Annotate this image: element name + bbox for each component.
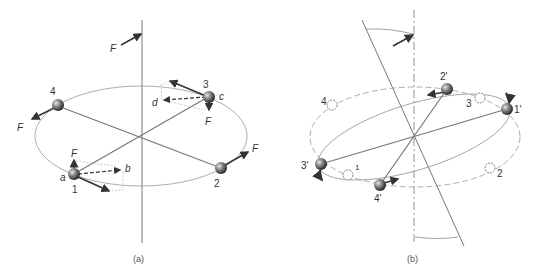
mass-label-4: 4 <box>50 86 56 97</box>
mass-label-3-prime: 3' <box>301 160 309 171</box>
tilt-angle-arc-top <box>366 29 413 34</box>
vector-diagram-1 <box>74 160 123 191</box>
panel-b: 4 3 1 2 2' 1' 3' 4' (b) <box>301 10 522 264</box>
mass-label-3: 3 <box>203 79 209 90</box>
force-label-3: F <box>205 116 212 127</box>
torque-arrow-b <box>393 35 413 46</box>
diagram-canvas: F F 4 3 c d F F 2 1 a b <box>0 0 533 275</box>
old-position-3 <box>475 93 485 103</box>
point-label-a: a <box>60 172 66 183</box>
mass-1-prime <box>501 103 513 115</box>
mass-label-2-prime: 2' <box>440 71 448 82</box>
mass-label-2: 2 <box>214 178 220 189</box>
mass-3 <box>203 91 215 103</box>
old-label-1: 1 <box>355 163 360 172</box>
mass-1 <box>68 168 80 180</box>
mass-4 <box>52 99 64 111</box>
force-label-2: F <box>252 143 259 154</box>
rod-4p-2p <box>380 89 447 185</box>
caption-a: (a) <box>133 254 144 264</box>
tilt-angle-arc-bottom <box>415 237 458 239</box>
torque-arrow <box>121 34 141 45</box>
motion-arrow-1p <box>506 93 509 103</box>
force-label-top: F <box>110 43 117 54</box>
vector-label-b: b <box>125 163 131 174</box>
rod-1-3 <box>74 97 208 174</box>
vector-diagram-3 <box>161 81 209 110</box>
old-position-4 <box>327 100 337 110</box>
mass-3-prime <box>315 158 327 170</box>
mass-label-4-prime: 4' <box>374 193 382 204</box>
force-arrow-2 <box>225 152 248 165</box>
vector-label-d: d <box>152 97 158 108</box>
mass-2 <box>215 162 227 174</box>
mass-2-prime <box>441 83 453 95</box>
old-label-3: 3 <box>466 98 472 109</box>
old-position-2 <box>485 163 495 173</box>
tilted-axis <box>362 20 464 246</box>
panel-a: F F 4 3 c d F F 2 1 a b <box>17 20 259 264</box>
old-label-2: 2 <box>497 168 503 179</box>
force-arrow-4 <box>32 107 56 119</box>
force-label-1: F <box>71 148 78 159</box>
old-label-4: 4 <box>321 96 327 107</box>
mass-4-prime <box>374 179 386 191</box>
point-label-c: c <box>219 91 224 102</box>
old-position-1 <box>343 170 353 180</box>
force-label-4: F <box>17 122 24 133</box>
motion-arrow-4p <box>384 179 398 183</box>
caption-b: (b) <box>407 254 418 264</box>
mass-label-1-prime: 1' <box>514 104 522 115</box>
mass-label-1: 1 <box>72 184 78 195</box>
